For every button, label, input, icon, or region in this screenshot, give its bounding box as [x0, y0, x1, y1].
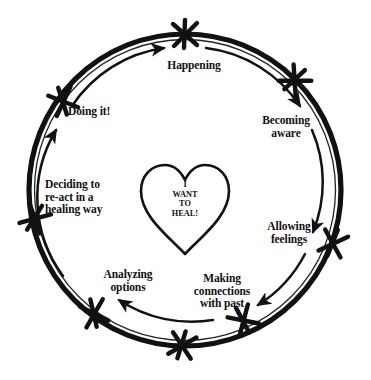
arrow-becoming-to-allowing — [312, 130, 323, 232]
arrow-happening-to-becoming — [206, 48, 300, 106]
arrow-making-to-analyzing — [119, 300, 213, 322]
healing-cycle-diagram: Happening Becoming aware Allowing feelin… — [0, 0, 371, 380]
diagram-canvas — [0, 0, 371, 380]
heart-icon — [141, 165, 229, 254]
node-markers — [18, 20, 349, 362]
flow-arrows — [37, 48, 322, 322]
